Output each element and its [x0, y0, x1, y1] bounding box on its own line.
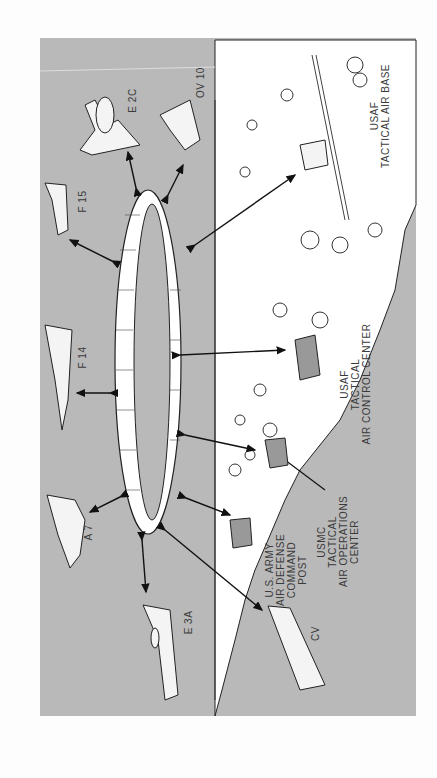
label-f15: F 15: [77, 182, 88, 222]
label-ov10: OV 10: [195, 63, 206, 103]
e3a-radome: [151, 628, 159, 648]
f14-aircraft: [45, 325, 72, 430]
label-e3a: E 3A: [183, 603, 194, 643]
e2c-radome: [96, 97, 114, 133]
ov10-aircraft: [160, 100, 200, 150]
a7-aircraft: [47, 495, 85, 568]
label-usaf-tab: USAF TACTICAL AIR BASE: [369, 61, 391, 171]
label-usaf-tacc: USAF TACTICAL AIR CONTROL CENTER: [339, 325, 372, 445]
usaf-tacc-building: [295, 335, 320, 380]
usaf-tab-tower: [300, 140, 328, 170]
network-ring: [115, 190, 181, 534]
e3a-aircraft: [143, 605, 178, 700]
label-cv: CV: [310, 614, 321, 654]
label-army: U.S. ARMY AIR DEFENSE COMMAND POST: [264, 525, 308, 615]
label-usmc: USMC TACTICAL AIR OPERATIONS CENTER: [316, 497, 360, 587]
label-a7: A 7: [83, 513, 94, 553]
label-e2c: E 2C: [127, 81, 138, 121]
army-building: [230, 518, 252, 548]
f15-aircraft: [45, 183, 68, 235]
label-f14: F 14: [77, 338, 88, 378]
